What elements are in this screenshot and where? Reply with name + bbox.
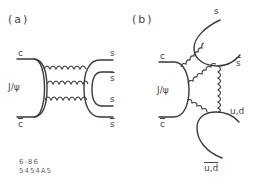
panel-a-label: (a) (8, 15, 29, 24)
out-sbar-2: s (110, 120, 115, 129)
meson-label: J/ψ (8, 83, 20, 92)
figure-number: 5454A5 (19, 167, 52, 175)
gluon-1 (44, 66, 86, 69)
strange-line-b (194, 20, 240, 66)
panel-a-diagram (17, 59, 113, 117)
gluon-b-3 (187, 99, 207, 112)
gluon-b-1 (181, 43, 204, 67)
quark-c-label: c (18, 49, 23, 58)
out-sbar-1: s (110, 74, 115, 83)
quark-cbar-label-b: c (160, 120, 165, 129)
light-quark-line-b (197, 112, 239, 158)
panel-b-diagram (159, 20, 240, 158)
out-sbar-label-b: s (236, 59, 241, 68)
figure-date: 6-86 (19, 158, 39, 166)
strange-outer-line (84, 60, 113, 117)
gluon-2 (47, 81, 88, 84)
out-ud-label-b: u,d (230, 107, 244, 116)
gluon-b-2 (188, 63, 216, 84)
out-s-label-b: s (214, 7, 219, 16)
panel-b-label: (b) (132, 15, 154, 24)
meson-label-b: J/ψ (157, 86, 169, 95)
out-s-1: s (110, 49, 115, 58)
quark-cbar-label: c (18, 120, 23, 129)
feynman-diagrams (0, 0, 264, 189)
quark-c-label-b: c (160, 52, 165, 61)
out-s-2: s (110, 95, 115, 104)
gluon-b-vertical (218, 66, 221, 112)
gluon-3 (45, 97, 87, 100)
charm-quark-line (17, 59, 45, 117)
out-udbar-label-b: u,d (204, 164, 218, 173)
